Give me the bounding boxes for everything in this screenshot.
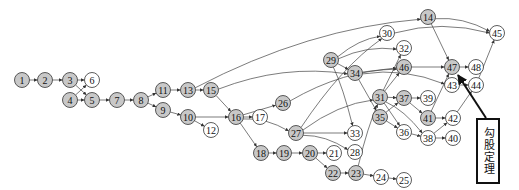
svg-text:45: 45: [492, 28, 502, 39]
edge-8-9: [148, 103, 156, 107]
node-13: 13: [181, 83, 196, 98]
node-37: 37: [397, 91, 412, 106]
svg-text:27: 27: [291, 128, 301, 139]
svg-text:47: 47: [447, 62, 457, 73]
node-7: 7: [110, 93, 125, 108]
edge-27-31: [303, 100, 373, 130]
edge-35-36: [386, 121, 397, 128]
edge-36-38: [411, 134, 420, 136]
svg-text:19: 19: [279, 148, 289, 159]
svg-text:41: 41: [423, 113, 433, 124]
edge-9-10: [170, 112, 181, 115]
svg-text:32: 32: [399, 43, 409, 54]
svg-text:17: 17: [255, 112, 265, 123]
svg-text:4: 4: [68, 95, 73, 106]
callout-label-box: 勾股定理: [476, 118, 500, 184]
svg-text:18: 18: [256, 148, 266, 159]
edge-20-22: [316, 158, 328, 168]
edge-23-24: [363, 174, 373, 176]
svg-text:15: 15: [206, 85, 216, 96]
svg-text:5: 5: [90, 95, 95, 106]
svg-text:9: 9: [161, 105, 166, 116]
svg-text:16: 16: [231, 112, 241, 123]
node-34: 34: [348, 66, 363, 81]
edge-30-45: [395, 26, 490, 33]
edge-29-30: [338, 36, 380, 56]
edge-10-12: [195, 121, 205, 127]
node-14: 14: [421, 10, 436, 25]
node-24: 24: [374, 170, 389, 185]
edge-27-30: [301, 39, 382, 128]
node-22: 22: [326, 166, 341, 181]
svg-text:33: 33: [350, 128, 360, 139]
node-43: 43: [445, 78, 460, 93]
svg-text:30: 30: [382, 28, 392, 39]
svg-text:10: 10: [183, 112, 193, 123]
svg-text:39: 39: [423, 93, 433, 104]
node-8: 8: [134, 93, 149, 108]
node-29: 29: [324, 53, 339, 68]
node-39: 39: [421, 91, 436, 106]
edge-15-34: [218, 71, 347, 89]
svg-text:25: 25: [399, 175, 409, 186]
svg-text:40: 40: [448, 133, 458, 144]
svg-text:46: 46: [399, 62, 409, 73]
svg-text:20: 20: [305, 148, 315, 159]
edge-14-45: [435, 18, 489, 31]
node-25: 25: [397, 173, 412, 188]
node-35: 35: [373, 110, 388, 125]
svg-text:14: 14: [423, 12, 433, 23]
node-40: 40: [446, 131, 461, 146]
node-31: 31: [373, 90, 388, 105]
node-18: 18: [254, 146, 269, 161]
node-5: 5: [85, 93, 100, 108]
svg-text:42: 42: [448, 113, 458, 124]
svg-text:26: 26: [278, 98, 288, 109]
edge-37-41: [410, 103, 422, 113]
node-45: 45: [490, 26, 505, 41]
node-38: 38: [421, 131, 436, 146]
edge-24-25: [388, 178, 396, 179]
svg-text:38: 38: [423, 133, 433, 144]
node-15: 15: [204, 83, 219, 98]
svg-text:35: 35: [375, 112, 385, 123]
svg-text:12: 12: [206, 125, 216, 136]
node-46: 46: [397, 60, 412, 75]
edge-31-46: [385, 73, 400, 91]
edge-38-42: [434, 123, 447, 134]
node-10: 10: [181, 110, 196, 125]
node-4: 4: [63, 93, 78, 108]
svg-text:44: 44: [471, 80, 481, 91]
node-9: 9: [156, 103, 171, 118]
node-41: 41: [421, 111, 436, 126]
node-30: 30: [380, 26, 395, 41]
node-26: 26: [276, 96, 291, 111]
svg-text:34: 34: [350, 68, 360, 79]
node-19: 19: [277, 146, 292, 161]
edge-29-34: [338, 64, 349, 70]
node-3: 3: [63, 73, 78, 88]
svg-text:36: 36: [399, 127, 409, 138]
node-44: 44: [469, 78, 484, 93]
node-12: 12: [204, 123, 219, 138]
svg-text:37: 37: [399, 93, 409, 104]
svg-text:3: 3: [68, 75, 73, 86]
node-2: 2: [38, 73, 53, 88]
node-27: 27: [289, 126, 304, 141]
edge-16-18: [240, 123, 256, 147]
svg-text:23: 23: [351, 168, 361, 179]
svg-text:28: 28: [350, 147, 360, 158]
node-32: 32: [397, 41, 412, 56]
node-36: 36: [397, 125, 412, 140]
edge-15-16: [216, 96, 231, 112]
svg-text:31: 31: [375, 92, 385, 103]
svg-text:21: 21: [329, 148, 339, 159]
node-21: 21: [327, 146, 342, 161]
edge-8-11: [148, 93, 156, 97]
svg-text:13: 13: [183, 85, 193, 96]
svg-text:29: 29: [326, 55, 336, 66]
node-20: 20: [303, 146, 318, 161]
svg-text:8: 8: [139, 95, 144, 106]
callout-label: 勾股定理: [482, 127, 494, 175]
graph-canvas: 1236457811913151012161726271819202122232…: [0, 0, 519, 190]
